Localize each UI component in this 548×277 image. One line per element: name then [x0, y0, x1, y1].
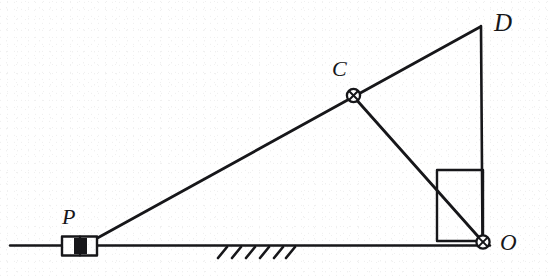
- ground-hatching: [218, 247, 295, 258]
- pivot-joint-o: [476, 235, 489, 248]
- link-p-c-d: [92, 27, 480, 241]
- slider-block-p: [62, 237, 97, 256]
- diagram-canvas: [0, 0, 548, 277]
- pivot-joint-c: [347, 89, 360, 102]
- vertex-label-d: D: [494, 10, 512, 35]
- vertex-label-c: C: [332, 58, 347, 80]
- mechanism-diagram: D C P O: [0, 0, 548, 277]
- vertex-label-o: O: [500, 231, 517, 254]
- vertex-label-p: P: [62, 206, 75, 228]
- right-angle-marker: [437, 170, 483, 241]
